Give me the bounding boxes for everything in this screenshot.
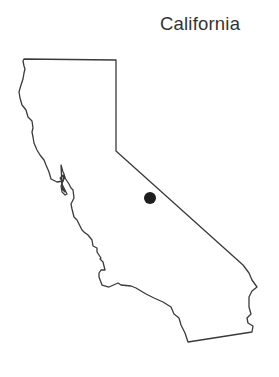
state-outline <box>19 59 257 342</box>
california-map <box>0 0 279 377</box>
location-marker <box>144 192 156 204</box>
